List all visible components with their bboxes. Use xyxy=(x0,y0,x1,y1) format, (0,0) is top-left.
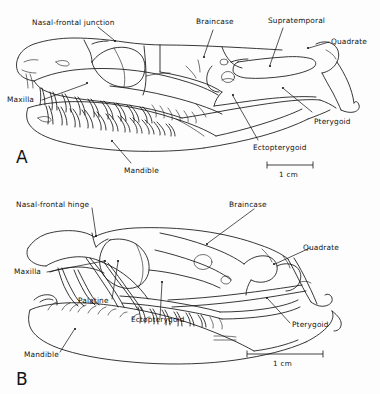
skull-figure: Nasal-frontal junction Braincase Suprate… xyxy=(0,0,380,394)
panel-a-drawing xyxy=(17,38,360,151)
label-mandible: Mandible xyxy=(124,166,159,175)
label-quadrate: Quadrate xyxy=(331,37,367,46)
label-pterygoid-b: Pterygoid xyxy=(292,320,329,329)
label-ectopterygoid-b: Ectopterygoid xyxy=(131,315,185,324)
label-palatine: Palatine xyxy=(78,296,109,305)
label-ectopterygoid: Ectopterygoid xyxy=(253,143,307,152)
panel-letter-a: A xyxy=(16,147,28,167)
panel-letter-b: B xyxy=(16,369,28,389)
label-pterygoid: Pterygoid xyxy=(314,117,351,126)
scale-bar-a-label: 1 cm xyxy=(279,170,298,179)
label-maxilla: Maxilla xyxy=(7,95,34,104)
label-nasal-frontal-junction: Nasal-frontal junction xyxy=(32,18,115,27)
label-supratemporal: Supratemporal xyxy=(268,16,325,25)
label-mandible-b: Mandible xyxy=(24,350,59,359)
label-nasal-frontal-hinge: Nasal-frontal hinge xyxy=(16,200,89,209)
panel-b-drawing xyxy=(27,228,341,364)
scale-bar-b-label: 1 cm xyxy=(273,359,292,368)
label-braincase-b: Braincase xyxy=(229,200,267,209)
scale-bar-a: 1 cm xyxy=(267,162,313,180)
label-maxilla-b: Maxilla xyxy=(14,267,41,276)
label-quadrate-b: Quadrate xyxy=(303,243,339,252)
label-braincase: Braincase xyxy=(196,17,234,26)
scale-bar-b: 1 cm xyxy=(247,351,323,369)
